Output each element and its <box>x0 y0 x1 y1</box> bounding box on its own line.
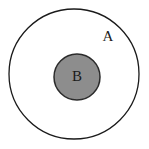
set-diagram-svg: A B <box>0 0 149 149</box>
set-diagram-canvas: A B <box>0 0 149 149</box>
set-label-a: A <box>103 28 114 44</box>
set-label-b: B <box>72 68 82 84</box>
